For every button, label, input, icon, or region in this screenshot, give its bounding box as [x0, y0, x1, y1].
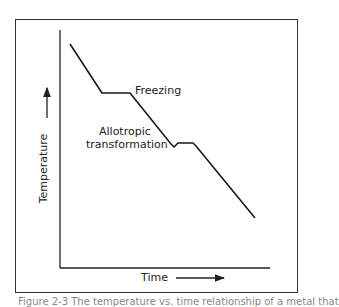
- cooling-curve: [70, 44, 255, 218]
- allotropic-label-line1: Allotropic: [99, 125, 151, 138]
- allotropic-label-line2: transformation: [86, 138, 168, 151]
- figure-caption: Figure 2-3 The temperature vs. time rela…: [18, 296, 339, 307]
- freezing-label: Freezing: [135, 84, 181, 97]
- y-axis-label: Temperature: [37, 134, 50, 204]
- x-axis-label: Time: [141, 271, 168, 284]
